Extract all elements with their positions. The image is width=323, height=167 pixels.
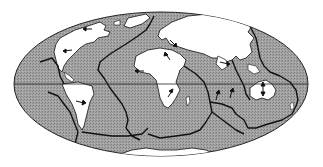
tectonic-map bbox=[0, 0, 323, 167]
map-canvas bbox=[0, 0, 323, 167]
